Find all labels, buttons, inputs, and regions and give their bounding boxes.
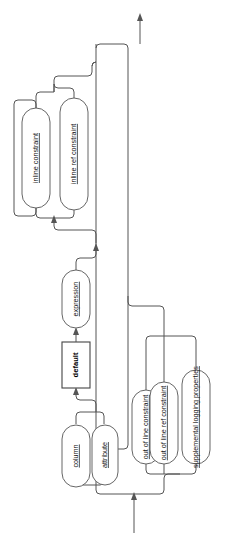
group-inline-constraints: inline constraint inline ref constraint bbox=[14, 62, 96, 243]
node-default-label: default bbox=[71, 352, 80, 377]
node-out-of-line-ref-constraint[interactable]: out of line ref constraint bbox=[150, 382, 178, 464]
group-column-attribute: column attribute bbox=[62, 412, 118, 487]
entry-arrow bbox=[131, 492, 137, 533]
node-inline-constraint[interactable]: inline constraint bbox=[22, 108, 50, 208]
node-inline-ref-constraint[interactable]: inline ref constraint bbox=[60, 98, 88, 210]
node-expression[interactable]: expression bbox=[62, 270, 90, 328]
node-inline-constraint-label: inline constraint bbox=[31, 133, 40, 183]
node-out-of-line-ref-constraint-label: out of line ref constraint bbox=[159, 386, 168, 461]
node-attribute-label: attribute bbox=[100, 442, 109, 468]
group-out-of-line: out of line constraint out of line ref c… bbox=[128, 296, 210, 482]
node-attribute[interactable]: attribute bbox=[92, 425, 118, 485]
node-expression-label: expression bbox=[71, 282, 80, 317]
group-default-expression: default expression bbox=[62, 243, 99, 412]
node-out-of-line-constraint-label: out of line constraint bbox=[141, 395, 150, 459]
outer-bypass-rail bbox=[96, 44, 128, 449]
railroad-diagram-svg: column attribute default bbox=[0, 0, 244, 535]
exit-arrow bbox=[96, 13, 200, 44]
node-inline-ref-constraint-label: inline ref constraint bbox=[69, 124, 78, 184]
node-supplemental-logging-properties-label: supplemental logging properties bbox=[191, 366, 200, 468]
node-column-label: column bbox=[71, 444, 80, 467]
node-default[interactable]: default bbox=[62, 342, 90, 388]
node-supplemental-logging-properties[interactable]: supplemental logging properties bbox=[182, 366, 210, 468]
node-column[interactable]: column bbox=[62, 425, 90, 487]
railroad-diagram-canvas: column attribute default bbox=[0, 0, 244, 535]
